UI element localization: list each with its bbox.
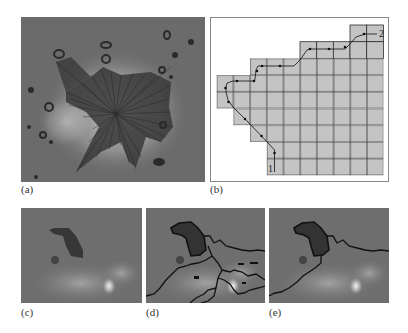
panel-e-image [269, 208, 389, 303]
panel-a-label: (a) [21, 183, 33, 195]
cell-radial-image [21, 17, 205, 182]
panel-e-label: (e) [269, 306, 281, 318]
grid-path-diagram [210, 17, 389, 182]
panel-d-image [146, 208, 265, 303]
panel-b-label: (b) [210, 183, 223, 195]
panel-d-label: (d) [146, 306, 159, 318]
multi-contour-image [146, 208, 265, 303]
path-start-label: 1 [268, 163, 273, 174]
panel-c-label: (c) [21, 306, 33, 318]
cropped-cell-image [21, 208, 142, 303]
panel-a-image [21, 17, 205, 182]
panel-c-image [21, 208, 142, 303]
panel-b-grid: 1 2 [210, 17, 389, 182]
path-end-label: 2 [379, 28, 384, 39]
selected-contour-image [269, 208, 389, 303]
